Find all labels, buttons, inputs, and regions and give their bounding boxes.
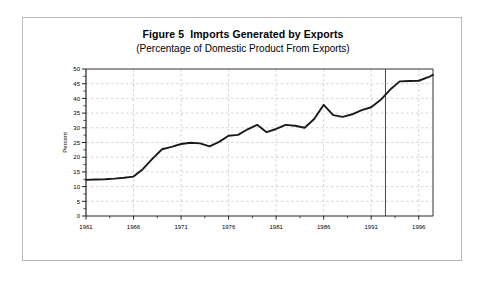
x-axis-tick-label: 1996: [412, 224, 426, 230]
x-axis-tick-label: 1981: [269, 224, 283, 230]
y-axis-tick-label: 30: [73, 125, 80, 131]
figure-frame: Figure 5 Imports Generated by Exports (P…: [22, 17, 462, 261]
line-chart: 05101520253035404550Percent1961196619711…: [23, 18, 463, 262]
y-axis-tick-label: 35: [73, 110, 80, 116]
y-axis-tick-label: 20: [73, 154, 80, 160]
y-axis-tick-label: 10: [73, 184, 80, 190]
y-axis-tick-label: 5: [77, 199, 81, 205]
data-series-line: [86, 75, 433, 180]
x-axis-tick-label: 1976: [222, 224, 236, 230]
y-axis-tick-label: 25: [73, 140, 80, 146]
y-axis-tick-label: 50: [73, 66, 80, 72]
y-axis-tick-label: 40: [73, 96, 80, 102]
y-axis-tick-label: 0: [77, 213, 81, 219]
x-axis-tick-label: 1961: [79, 224, 93, 230]
x-axis-tick-label: 1986: [317, 224, 331, 230]
x-axis-tick-label: 1991: [365, 224, 379, 230]
x-axis-tick-label: 1966: [127, 224, 141, 230]
y-axis-title: Percent: [62, 132, 68, 153]
x-axis-tick-label: 1971: [174, 224, 188, 230]
y-axis-tick-label: 15: [73, 169, 80, 175]
y-axis-tick-label: 45: [73, 81, 80, 87]
